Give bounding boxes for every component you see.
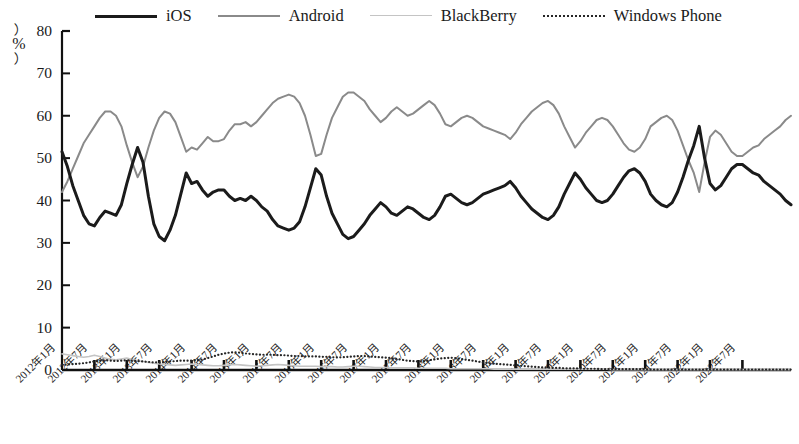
series-line-windows-phone xyxy=(62,352,791,369)
series-line-blackberry xyxy=(62,354,791,370)
chart-container: iOS Android BlackBerry Windows Phone ︵ %… xyxy=(0,0,799,444)
chart-plot-area xyxy=(0,0,799,444)
